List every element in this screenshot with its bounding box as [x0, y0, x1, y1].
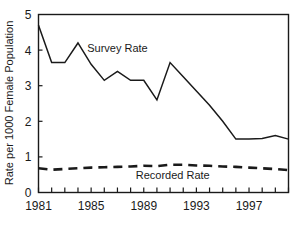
y-axis-title: Rate per 1000 Female Population: [3, 21, 15, 186]
y-tick-label: 5: [25, 8, 32, 22]
series-label-recorded-rate: Recorded Rate: [136, 169, 210, 181]
line-chart: 012345 19811985198919931997 Rate per 100…: [0, 0, 303, 227]
chart-container: 012345 19811985198919931997 Rate per 100…: [0, 0, 303, 227]
x-tick-label: 1981: [25, 199, 52, 213]
x-tick-label: 1997: [236, 199, 263, 213]
series-label-survey-rate: Survey Rate: [87, 42, 148, 54]
x-tick-label: 1989: [130, 199, 157, 213]
y-tick-label: 4: [25, 44, 32, 58]
x-tick-label: 1985: [78, 199, 105, 213]
x-axis-tick-labels: 19811985198919931997: [25, 199, 263, 213]
x-tick-label: 1993: [183, 199, 210, 213]
y-tick-label: 2: [25, 115, 32, 129]
y-tick-label: 3: [25, 79, 32, 93]
y-tick-label: 1: [25, 150, 32, 164]
